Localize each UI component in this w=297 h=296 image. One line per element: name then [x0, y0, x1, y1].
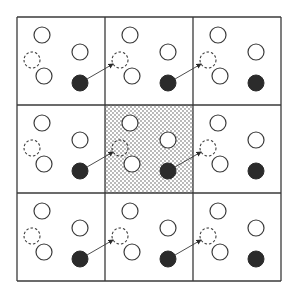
open-atom-circle — [72, 220, 88, 236]
open-atom-circle — [212, 244, 228, 260]
open-atom-circle — [36, 156, 52, 172]
open-atom-circle — [248, 132, 264, 148]
filled-atom-circle — [248, 75, 264, 91]
open-atom-circle — [160, 132, 176, 148]
open-atom-circle — [248, 220, 264, 236]
open-atom-circle — [34, 27, 50, 43]
vacancy-dashed-circle — [200, 140, 216, 156]
open-atom-circle — [248, 44, 264, 60]
vacancy-dashed-circle — [24, 140, 40, 156]
open-atom-circle — [36, 244, 52, 260]
open-atom-circle — [72, 44, 88, 60]
filled-atom-circle — [72, 163, 88, 179]
open-atom-circle — [212, 68, 228, 84]
open-atom-circle — [160, 44, 176, 60]
displacement-arrow — [175, 240, 201, 255]
open-atom-circle — [122, 115, 138, 131]
open-atom-circle — [34, 115, 50, 131]
open-atom-circle — [212, 156, 228, 172]
filled-atom-circle — [160, 251, 176, 267]
cell-r1-c2 — [200, 115, 264, 179]
filled-atom-circle — [248, 251, 264, 267]
cell-r0-c2 — [200, 27, 264, 91]
cell-r2-c1 — [112, 203, 176, 267]
cell-r1-c1 — [105, 105, 193, 193]
open-atom-circle — [210, 115, 226, 131]
shaded-cell-background — [105, 105, 193, 193]
cell-r0-c0 — [24, 27, 88, 91]
open-atom-circle — [210, 27, 226, 43]
open-atom-circle — [122, 203, 138, 219]
cell-r2-c0 — [24, 203, 88, 267]
vacancy-dashed-circle — [200, 228, 216, 244]
displacement-arrow — [175, 64, 201, 79]
vacancy-dashed-circle — [200, 52, 216, 68]
vacancy-dashed-circle — [112, 228, 128, 244]
vacancy-dashed-circle — [24, 52, 40, 68]
open-atom-circle — [72, 132, 88, 148]
vacancy-dashed-circle — [24, 228, 40, 244]
open-atom-circle — [36, 68, 52, 84]
filled-atom-circle — [248, 163, 264, 179]
open-atom-circle — [122, 27, 138, 43]
open-atom-circle — [210, 203, 226, 219]
periodic-cell-diagram — [0, 0, 297, 296]
filled-atom-circle — [160, 75, 176, 91]
open-atom-circle — [124, 156, 140, 172]
filled-atom-circle — [72, 251, 88, 267]
open-atom-circle — [124, 68, 140, 84]
filled-atom-circle — [160, 163, 176, 179]
displacement-arrow — [87, 240, 113, 255]
cell-r1-c0 — [24, 115, 88, 179]
filled-atom-circle — [72, 75, 88, 91]
cell-r0-c1 — [112, 27, 176, 91]
displacement-arrow — [87, 64, 113, 79]
open-atom-circle — [160, 220, 176, 236]
cell-r2-c2 — [200, 203, 264, 267]
vacancy-dashed-circle — [112, 52, 128, 68]
open-atom-circle — [34, 203, 50, 219]
open-atom-circle — [124, 244, 140, 260]
